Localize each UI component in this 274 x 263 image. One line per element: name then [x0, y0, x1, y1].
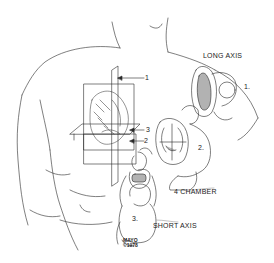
echo-planes-illustration: LONG AXIS 4 CHAMBER SHORT AXIS 1 3 2 1. … [0, 0, 274, 263]
short-axis-view [117, 148, 178, 246]
four-chamber-view-number: 2. [198, 144, 204, 151]
plane-marker-3: 3 [146, 126, 150, 133]
heart-in-chest [90, 91, 128, 144]
signature-line-2: ©1978 [123, 243, 138, 248]
plane-marker-1: 1 [145, 74, 149, 81]
short-axis-view-number: 3. [132, 215, 138, 222]
four-chamber-view [156, 106, 214, 191]
imaging-planes [70, 66, 140, 186]
line-drawing [0, 0, 274, 263]
long-axis-view-number: 1. [244, 83, 250, 90]
long-axis-label: LONG AXIS [203, 52, 242, 59]
artist-signature: MAYO ©1978 [123, 238, 138, 248]
four-chamber-label: 4 CHAMBER [174, 188, 217, 195]
short-axis-label: SHORT AXIS [153, 222, 197, 229]
plane-marker-2: 2 [144, 137, 148, 144]
